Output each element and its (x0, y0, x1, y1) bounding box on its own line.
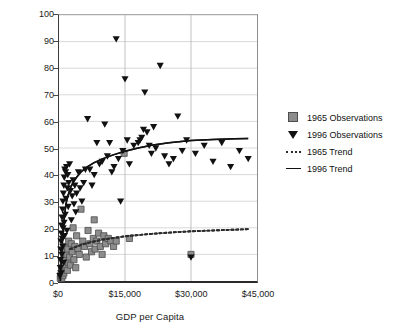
data-layer (59, 15, 257, 281)
y-tick-label: 90 (8, 36, 54, 46)
data-point-marker (113, 238, 119, 244)
data-point-marker (91, 217, 97, 223)
dotted-line-icon (286, 145, 302, 158)
data-point-marker (227, 164, 234, 170)
y-tick-label: 40 (8, 170, 54, 180)
data-point-marker (141, 89, 148, 95)
data-point-marker (84, 116, 91, 122)
data-point-marker (68, 217, 75, 223)
y-tick-label: 10 (8, 251, 54, 261)
y-tick-label: 50 (8, 144, 54, 154)
x-tick-label: $30,000 (156, 289, 226, 299)
legend-item[interactable]: 1996 Observations (286, 127, 404, 142)
data-point-marker (157, 63, 164, 69)
data-point-marker (165, 161, 172, 167)
scatter-chart-figure: School Enrollment GDP per Capita 0102030… (0, 0, 408, 332)
square-marker-glyph (288, 112, 298, 122)
data-point-marker (115, 156, 122, 162)
data-point-marker (218, 140, 225, 146)
data-point-marker (245, 156, 252, 162)
x-tick-label: $15,000 (90, 289, 160, 299)
data-point-marker (69, 193, 76, 199)
data-point-marker (78, 199, 85, 205)
data-point-marker (73, 265, 79, 271)
dotted-line-glyph (286, 151, 301, 153)
triangle-marker-icon (286, 128, 302, 141)
data-point-marker (117, 199, 124, 205)
data-point-marker (85, 227, 91, 233)
solid-line-icon (286, 162, 302, 175)
data-point-marker (124, 137, 131, 143)
data-point-marker (121, 76, 128, 82)
data-point-marker (201, 143, 208, 149)
data-point-marker (209, 159, 216, 165)
triangle-marker-glyph (288, 131, 298, 139)
data-point-marker (76, 251, 82, 257)
data-point-marker (106, 140, 113, 146)
data-point-marker (70, 225, 76, 231)
y-tick-label: 30 (8, 197, 54, 207)
y-tick-label: 100 (8, 9, 54, 19)
y-tick-label: 20 (8, 224, 54, 234)
y-tick-label: 60 (8, 117, 54, 127)
legend-item[interactable]: 1965 Observations (286, 110, 404, 125)
data-point-marker (150, 124, 157, 130)
chart-legend: 1965 Observations1996 Observations1965 T… (286, 110, 404, 178)
x-tick-label: $0 (23, 289, 93, 299)
data-point-marker (101, 121, 108, 127)
data-point-marker (192, 151, 199, 157)
data-point-marker (88, 183, 95, 189)
y-tick-mark (53, 283, 58, 284)
data-point-marker (161, 153, 168, 159)
square-marker-icon (286, 111, 302, 124)
legend-item[interactable]: 1965 Trend (286, 144, 404, 159)
legend-item-label: 1996 Trend (307, 164, 353, 174)
data-point-marker (74, 233, 80, 239)
plot-area (58, 14, 258, 283)
legend-item-label: 1965 Trend (307, 147, 353, 157)
legend-item-label: 1965 Observations (307, 113, 383, 123)
y-tick-label: 0 (8, 278, 54, 288)
data-point-marker (108, 169, 115, 175)
y-tick-label: 80 (8, 63, 54, 73)
data-point-marker (179, 148, 186, 154)
solid-line-glyph (286, 168, 301, 169)
x-tick-label: $45,000 (223, 289, 293, 299)
data-point-marker (148, 151, 155, 157)
data-point-marker (113, 36, 120, 42)
data-point-marker (236, 148, 243, 154)
data-point-marker (99, 251, 105, 257)
y-tick-label: 70 (8, 90, 54, 100)
legend-item-label: 1996 Observations (307, 130, 383, 140)
x-axis-title: GDP per Capita (40, 311, 260, 322)
data-point-marker (93, 140, 100, 146)
data-point-marker (126, 161, 133, 167)
legend-item[interactable]: 1996 Trend (286, 161, 404, 176)
data-point-marker (174, 113, 181, 119)
data-point-marker (91, 172, 98, 178)
